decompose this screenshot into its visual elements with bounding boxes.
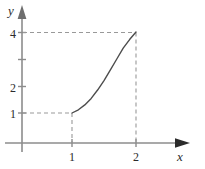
y-tick-label-2: 2 [10,81,16,95]
x-axis-label: x [176,149,183,164]
chart-figure: 1 2 4 1 2 y x [0,0,205,169]
y-axis-arrow-icon [18,5,27,19]
x-tick-label-1: 1 [69,150,75,164]
chart-plot-area: 1 2 4 1 2 y x [0,0,205,169]
y-tick-label-1: 1 [10,107,16,121]
data-curve [72,32,136,113]
y-axis-label: y [6,3,14,18]
x-axis-arrow-icon [175,138,190,148]
x-tick-label-2: 2 [133,150,139,164]
y-tick-label-4: 4 [10,27,16,41]
